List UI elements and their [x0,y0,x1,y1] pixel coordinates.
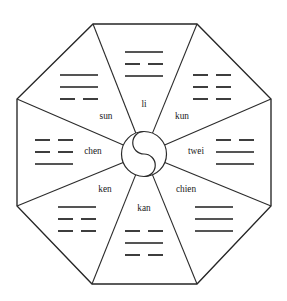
sector-label-chien: chien [176,184,196,194]
sector-label-kan: kan [137,203,151,213]
sector-label-kun: kun [175,111,189,121]
sector-label-twei: twei [188,146,204,156]
bagua-svg-canvas: likuntweichienkankenchensun [0,0,287,301]
sector-label-ken: ken [98,184,112,194]
bagua-diagram: likuntweichienkankenchensun [0,0,287,301]
sector-label-sun: sun [100,111,113,121]
sector-label-li: li [141,99,147,109]
taiji-symbol [122,132,167,177]
sector-label-chen: chen [84,146,102,156]
